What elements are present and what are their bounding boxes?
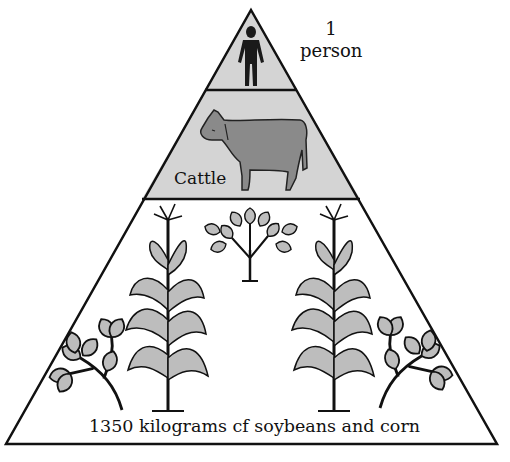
pyramid-graphic (0, 0, 510, 462)
food-pyramid-diagram: 1 person Cattle 1350 kilograms cf soybea… (0, 0, 510, 462)
top-level-label: 1 person (300, 18, 362, 62)
cattle-label: Cattle (174, 168, 226, 188)
bottom-layer (6, 199, 497, 444)
person-count: 1 (300, 18, 362, 40)
producer-label: 1350 kilograms cf soybeans and corn (82, 416, 427, 436)
person-unit: person (300, 40, 362, 62)
